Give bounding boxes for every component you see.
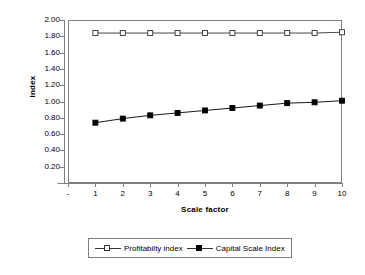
legend-entry-capital-scale: Capital Scale Index [187,244,285,253]
legend-label-profitability: Profitabilty index [124,244,183,253]
x-axis-tick-mark [95,183,96,187]
x-axis-title: Scale factor [68,205,342,214]
x-axis-tick-label: 1 [83,189,107,198]
x-axis-tick-mark [150,183,151,187]
x-axis-tick-label: 10 [330,189,354,198]
x-axis-tick-mark [260,183,261,187]
y-axis-tick-mark [60,85,64,86]
y-axis-tick-label: 1.40 [18,65,60,73]
x-axis-tick-label: 3 [138,189,162,198]
y-axis-tick-mark [60,118,64,119]
y-axis-tick-mark [60,150,64,151]
y-axis-tick-label: 0.40 [18,146,60,154]
y-axis-tick-mark [60,183,64,184]
y-axis-tick-label: 2.00 [18,16,60,24]
x-axis-tick-label: 6 [220,189,244,198]
open-square-marker-icon [95,244,121,253]
y-axis-line [64,20,65,183]
y-axis-tick-label: 1.20 [18,81,60,89]
x-axis-tick-mark [205,183,206,187]
legend-label-capital-scale: Capital Scale Index [216,244,285,253]
x-axis-line [64,183,342,184]
x-axis-tick-mark [178,183,179,187]
y-axis-tick-label: 1.00 [18,98,60,106]
line-chart: Index 2.001.801.601.401.201.000.800.600.… [0,0,365,275]
y-axis-tick-label: 1.60 [18,49,60,57]
x-axis-tick-label: 7 [248,189,272,198]
y-axis-tick-mark [60,167,64,168]
y-axis-tick-labels: 2.001.801.601.401.201.000.800.600.400.20… [18,20,60,183]
x-axis-tick-mark [68,183,69,187]
x-axis-tick-label: 2 [111,189,135,198]
y-axis-tick-mark [60,134,64,135]
x-axis-tick-mark [287,183,288,187]
y-axis-tick-label: 0.20 [18,163,60,171]
legend-entry-profitability: Profitabilty index [95,244,183,253]
x-axis-tick-label: 8 [275,189,299,198]
x-axis-tick-label: - [56,189,80,198]
y-axis-tick-mark [60,20,64,21]
y-axis-tick-label: - [18,179,60,187]
x-axis-tick-label: 4 [166,189,190,198]
y-axis-tick-mark [60,69,64,70]
y-axis-tick-label: 0.60 [18,130,60,138]
y-axis-tick-mark [60,36,64,37]
x-axis-tick-label: 5 [193,189,217,198]
y-axis-tick-mark [60,53,64,54]
chart-legend: Profitabilty index Capital Scale Index [88,238,292,258]
x-axis-tick-label: 9 [303,189,327,198]
x-axis-tick-mark [315,183,316,187]
y-axis-tick-label: 0.80 [18,114,60,122]
y-axis-tick-label: 1.80 [18,32,60,40]
x-axis-tick-mark [232,183,233,187]
y-axis-tick-mark [60,102,64,103]
x-axis-tick-mark [123,183,124,187]
x-axis-tick-mark [342,183,343,187]
filled-square-marker-icon [187,244,213,253]
plot-area [68,20,342,183]
